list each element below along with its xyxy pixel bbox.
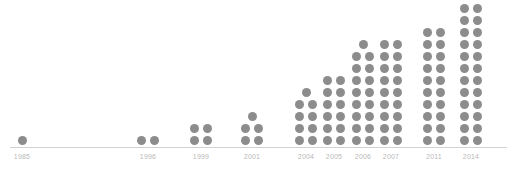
dot-row bbox=[422, 124, 446, 136]
data-dot bbox=[423, 112, 432, 121]
data-dot bbox=[460, 88, 469, 97]
data-dot bbox=[365, 64, 374, 73]
data-dot bbox=[308, 100, 317, 109]
data-dot bbox=[380, 124, 389, 133]
data-dot bbox=[393, 136, 402, 145]
data-dot bbox=[460, 136, 469, 145]
dot-row bbox=[322, 124, 346, 136]
data-dot bbox=[393, 40, 402, 49]
dot-row bbox=[459, 124, 483, 136]
data-dot bbox=[359, 40, 368, 49]
x-tick-label: 2007 bbox=[383, 152, 399, 161]
data-dot bbox=[473, 28, 482, 37]
data-dot bbox=[436, 64, 445, 73]
dot-row bbox=[294, 124, 318, 136]
data-dot bbox=[137, 136, 146, 145]
data-dot bbox=[323, 88, 332, 97]
data-dot bbox=[254, 136, 263, 145]
data-dot bbox=[473, 88, 482, 97]
data-dot bbox=[336, 136, 345, 145]
dot-row bbox=[459, 76, 483, 88]
data-dot bbox=[365, 136, 374, 145]
data-dot bbox=[295, 136, 304, 145]
dot-column bbox=[351, 40, 375, 148]
data-dot bbox=[460, 52, 469, 61]
data-dot bbox=[460, 64, 469, 73]
data-dot bbox=[473, 4, 482, 13]
dot-row bbox=[351, 52, 375, 64]
x-tick-label: 2014 bbox=[463, 152, 479, 161]
x-tick-label: 1996 bbox=[140, 152, 156, 161]
data-dot bbox=[190, 136, 199, 145]
data-dot bbox=[423, 136, 432, 145]
dot-row bbox=[351, 124, 375, 136]
data-dot bbox=[393, 88, 402, 97]
dot-row bbox=[351, 64, 375, 76]
data-dot bbox=[393, 124, 402, 133]
data-dot bbox=[365, 124, 374, 133]
dot-row bbox=[379, 64, 403, 76]
dot-row bbox=[459, 28, 483, 40]
dot-row bbox=[379, 40, 403, 52]
data-dot bbox=[393, 112, 402, 121]
data-dot bbox=[380, 76, 389, 85]
data-dot bbox=[352, 88, 361, 97]
data-dot bbox=[393, 100, 402, 109]
data-dot bbox=[365, 88, 374, 97]
data-dot bbox=[423, 64, 432, 73]
x-tick-label: 1999 bbox=[193, 152, 209, 161]
data-dot bbox=[295, 124, 304, 133]
x-axis-line bbox=[10, 147, 507, 148]
dot-row bbox=[240, 124, 264, 136]
data-dot bbox=[308, 136, 317, 145]
dot-row bbox=[422, 52, 446, 64]
dot-row bbox=[351, 100, 375, 112]
dot-column bbox=[322, 76, 346, 148]
data-dot bbox=[323, 124, 332, 133]
data-dot bbox=[336, 100, 345, 109]
data-dot bbox=[380, 112, 389, 121]
dot-column bbox=[294, 88, 318, 148]
dot-row bbox=[379, 124, 403, 136]
dot-row bbox=[422, 40, 446, 52]
data-dot bbox=[436, 28, 445, 37]
dot-column bbox=[422, 28, 446, 148]
dot-row bbox=[322, 112, 346, 124]
data-dot bbox=[460, 4, 469, 13]
data-dot bbox=[473, 76, 482, 85]
data-dot bbox=[473, 64, 482, 73]
dot-row bbox=[351, 76, 375, 88]
dot-row bbox=[459, 52, 483, 64]
data-dot bbox=[352, 124, 361, 133]
data-dot bbox=[323, 112, 332, 121]
data-dot bbox=[380, 40, 389, 49]
data-dot bbox=[241, 124, 250, 133]
dot-column bbox=[240, 112, 264, 148]
dot-row bbox=[459, 88, 483, 100]
dot-row bbox=[459, 4, 483, 16]
data-dot bbox=[423, 28, 432, 37]
data-dot bbox=[365, 100, 374, 109]
data-dot bbox=[323, 76, 332, 85]
dot-row bbox=[379, 88, 403, 100]
dot-row bbox=[379, 52, 403, 64]
dot-row bbox=[357, 40, 369, 52]
data-dot bbox=[436, 100, 445, 109]
data-dot bbox=[436, 76, 445, 85]
data-dot bbox=[473, 136, 482, 145]
data-dot bbox=[323, 100, 332, 109]
plot-area bbox=[0, 0, 517, 148]
dot-row bbox=[422, 112, 446, 124]
dot-row bbox=[422, 64, 446, 76]
dot-row bbox=[322, 100, 346, 112]
data-dot bbox=[393, 52, 402, 61]
data-dot bbox=[460, 100, 469, 109]
dot-row bbox=[459, 100, 483, 112]
data-dot bbox=[352, 76, 361, 85]
dot-row bbox=[351, 112, 375, 124]
dot-column bbox=[189, 124, 213, 148]
dot-row bbox=[459, 112, 483, 124]
dot-row bbox=[379, 76, 403, 88]
data-dot bbox=[436, 40, 445, 49]
data-dot bbox=[436, 112, 445, 121]
